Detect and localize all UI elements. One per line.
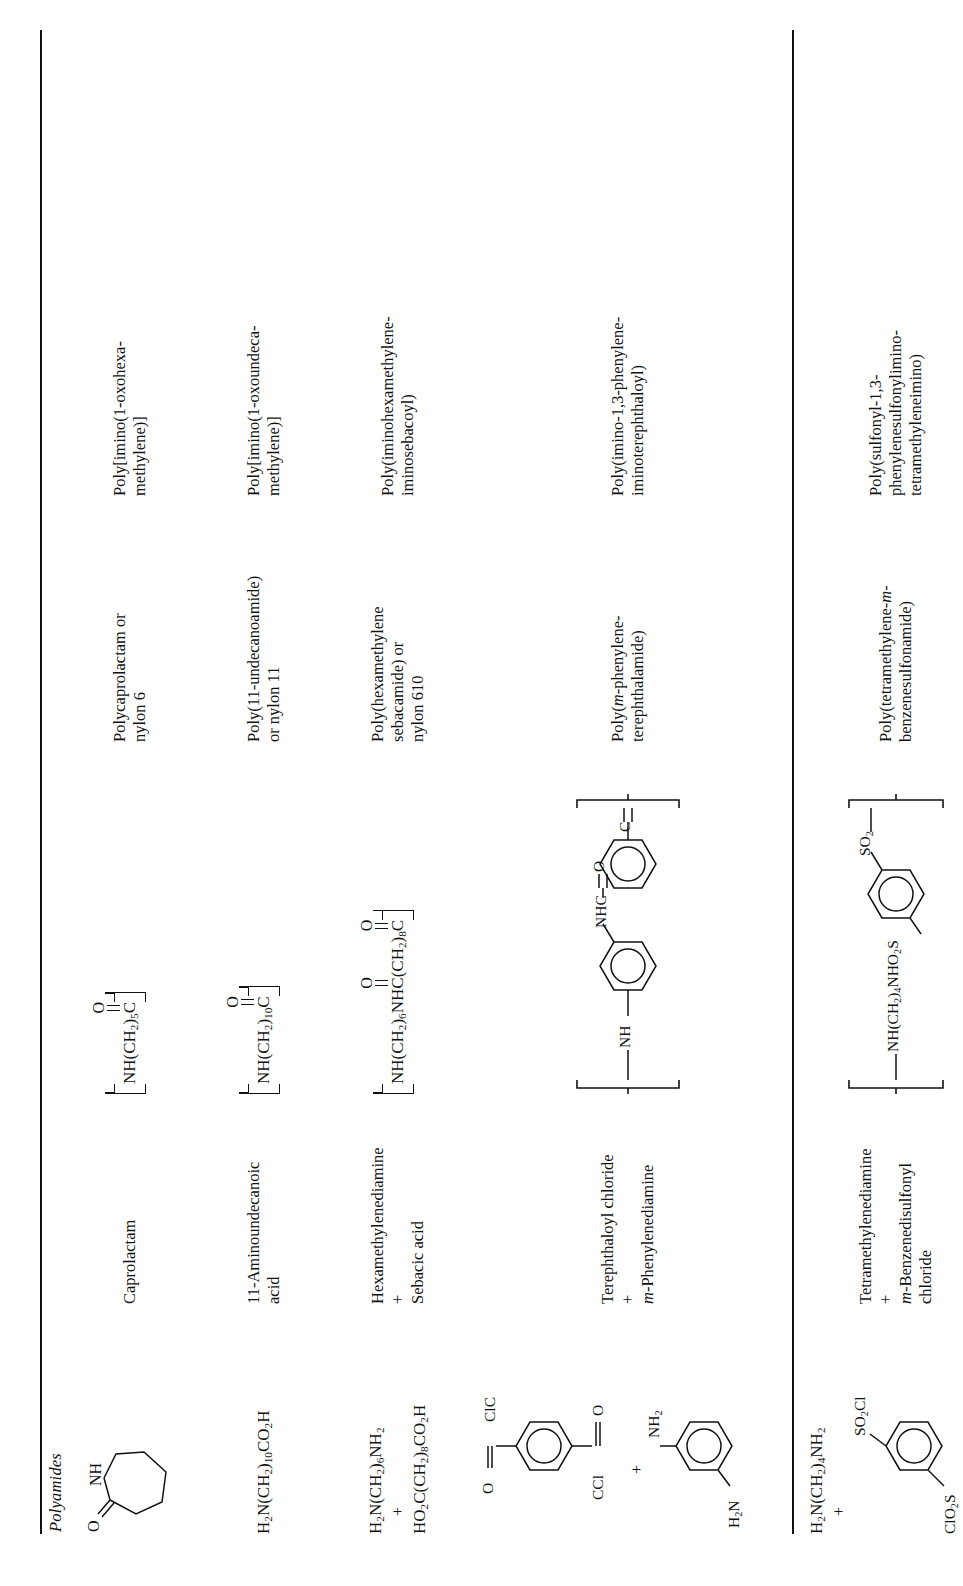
carbonyl-oxygen-label: O	[359, 920, 375, 932]
source-name-cell: Poly(sulfonyl-1,3- phenylenesulfonylimin…	[836, 250, 956, 496]
amine-label-top: NH2	[646, 1411, 664, 1439]
common-name-line: or nylon 11	[264, 667, 284, 742]
source-name-line: Poly(sulfonyl-1,3-	[866, 375, 886, 496]
monomer-name-line: m-Benzenedisulfonyl	[896, 1163, 916, 1304]
so2-label: SO2	[857, 831, 875, 856]
source-name-line: methylene)]	[264, 416, 284, 496]
repeat-unit-cell: NH(CH2)4NHO2S SO2	[823, 776, 963, 1094]
source-name-line: Poly[imino(1-oxohexa-	[110, 341, 130, 496]
monomer-name-cell: Hexamethylenediamine + Sebacic acid	[338, 1128, 458, 1304]
source-name-line: tetramethyleneimino)	[906, 354, 926, 496]
double-bond-icon	[375, 980, 388, 986]
bond-stub-left	[105, 1092, 114, 1094]
source-name-line: methylene)]	[130, 416, 150, 496]
monomer-structure-cell: ClC O CCl O + NH2 H2N	[472, 1338, 784, 1534]
repeat-unit-bracket: NH(CH2)10OC	[254, 986, 274, 1094]
source-name-line: iminosebacoyl)	[398, 394, 418, 496]
monomer-structure-cell: O NH	[70, 1338, 190, 1534]
plus-sign: +	[390, 1507, 406, 1516]
row-spacer	[190, 250, 204, 1534]
carbonyl-oxygen-label: O	[480, 1483, 496, 1494]
carbonyl-oxygen-label: O	[225, 996, 241, 1008]
monomer-name-line: Sebacic acid	[408, 1221, 428, 1304]
monomer-name-line: 11-Aminoundecanoic	[244, 1162, 264, 1304]
common-name-cell: Poly(tetramethylene-m- benzenesulfonamid…	[836, 530, 956, 742]
common-name-line: sebacamide) or	[388, 642, 408, 742]
monomer-formula-diacid: HO2C(CH2)8CO2H	[407, 1405, 433, 1534]
bond-stub-right	[105, 992, 114, 994]
monomer-formula-diamine: H2N(CH2)4NH2	[804, 1427, 830, 1534]
benzene-ring-icon	[478, 1344, 628, 1534]
acid-chloride-label-bottom: CCl	[590, 1475, 606, 1500]
source-name-line: Poly(iminohexamethylene-	[378, 316, 398, 496]
repeat-unit-cell: NH(CH2)5OC	[70, 776, 190, 1094]
repeat-unit-bracket: NH(CH2)6NHOC(CH2)8OC	[388, 910, 408, 1094]
sulfonamide-repeat-unit-structure: NH(CH2)4NHO2S SO2	[829, 794, 963, 1094]
common-name-line: benzenesulfonamide)	[896, 601, 916, 742]
source-name-cell: Poly[imino(1-oxoundeca- methylene)]	[204, 250, 324, 496]
ring-nh-label: NH	[88, 1463, 104, 1486]
source-name-cell: Poly[imino(1-oxohexa- methylene)]	[70, 250, 190, 496]
source-name-line: Poly[imino(1-oxoundeca-	[244, 326, 264, 496]
monomer-structure-cell: H2N(CH2)4NH2 + SO2Cl ClO2S	[798, 1338, 963, 1534]
repeat-unit-structure: NH(CH2)5OC	[112, 992, 148, 1094]
repeat-unit-chain: NH(CH2)5OC	[120, 1002, 139, 1084]
table-grid: O NH Caprolactam NH(CH2)5OC	[70, 34, 963, 1534]
monomer-name-plus: +	[388, 1295, 408, 1304]
bond-stub-left	[373, 1092, 382, 1094]
plus-sign: +	[831, 1507, 847, 1516]
common-name-line: terephthalamide)	[628, 630, 648, 742]
m-phenylenediamine-structure: NH2 H2N	[646, 1344, 778, 1534]
row-spacer	[324, 250, 338, 1534]
monomer-name-plus: +	[618, 1295, 638, 1304]
carbonyl-oxygen-label: O	[590, 1405, 606, 1416]
double-bond-icon	[375, 923, 388, 929]
carbonyl-carbon-label: C	[617, 822, 633, 832]
common-name-cell: Polycaprolactam or nylon 6	[70, 530, 190, 742]
monomer-name-line: m-Phenylenediamine	[638, 1165, 658, 1304]
aramid-skeleton-icon	[553, 794, 703, 1094]
monomer-name-plus: +	[876, 1295, 896, 1304]
row-spacer	[784, 250, 798, 1534]
monomer-name-line: acid	[264, 1277, 284, 1304]
carbonyl-group: OC	[121, 1002, 140, 1013]
carbonyl-oxygen-label: O	[359, 977, 375, 989]
common-name-cell: Poly(hexamethylene sebacamide) or nylon …	[338, 530, 458, 742]
nhc-label: NHC	[593, 895, 609, 928]
carbonyl-oxygen-label: O	[591, 861, 607, 872]
monomer-name-line: Terephthaloyl chloride	[598, 1154, 618, 1304]
common-name-line: nylon 6	[130, 692, 150, 742]
bond-stub-right	[239, 986, 248, 988]
sulfonyl-chloride-label-bottom: ClO2S	[942, 1494, 960, 1534]
repeat-unit-chain: NH(CH2)10OC	[254, 996, 273, 1084]
repeat-unit-cell: NH(CH2)6NHOC(CH2)8OC	[338, 776, 458, 1094]
monomer-name-cell: Tetramethylenediamine + m-Benzenedisulfo…	[836, 1128, 956, 1304]
common-name-line: Poly(m-phenylene-	[608, 616, 628, 742]
section-title: Polyamides	[46, 34, 66, 1534]
carbonyl-group: OC	[389, 920, 408, 931]
common-name-line: Poly(hexamethylene	[368, 606, 388, 742]
amine-label-bottom: H2N	[726, 1500, 744, 1528]
common-name-line: Poly(11-undecanoamide)	[244, 576, 264, 742]
carbonyl-oxygen-label: O	[91, 1002, 107, 1014]
repeat-unit-cell: NH(CH2)10OC	[204, 776, 324, 1094]
monomer-name-line: chloride	[916, 1250, 936, 1304]
repeat-unit-structure: NH(CH2)10OC	[246, 986, 282, 1094]
carbonyl-group: OC	[255, 996, 274, 1007]
table-top-rule	[40, 30, 42, 1534]
source-name-cell: Poly(iminohexamethylene- iminosebacoyl)	[338, 250, 458, 496]
common-name-cell: Poly(m-phenylene- terephthalamide)	[568, 530, 688, 742]
source-name-line: iminoterephthaloyl)	[628, 365, 648, 496]
source-name-cell: Poly(imino-1,3-phenylene- iminoterephtha…	[568, 250, 688, 496]
m-benzenedisulfonyl-chloride-structure: SO2Cl ClO2S	[848, 1344, 963, 1534]
benzene-ring-icon	[646, 1344, 778, 1534]
repeat-unit-chain: NH(CH2)6NHOC(CH2)8OC	[388, 920, 407, 1084]
monomer-name-cell: Terephthaloyl chloride + m-Phenylenediam…	[568, 1128, 688, 1304]
row-spacer	[458, 250, 472, 1534]
monomer-structure-cell: H2N(CH2)6NH2 + HO2C(CH2)8CO2H	[338, 1338, 458, 1534]
plus-sign: +	[629, 1465, 645, 1474]
terephthaloyl-chloride-structure: ClC O CCl O	[478, 1344, 628, 1534]
repeat-unit-bracket: NH(CH2)5OC	[120, 992, 140, 1094]
monomer-name-cell: Caprolactam	[70, 1128, 190, 1304]
